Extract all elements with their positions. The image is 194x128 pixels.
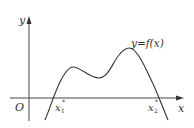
function-graph: y O x y=f(x) x 1 * x 2 * bbox=[0, 0, 194, 128]
origin-label: O bbox=[15, 101, 24, 114]
x-axis-arrow-icon bbox=[176, 96, 184, 101]
root-2-sup: * bbox=[155, 98, 158, 105]
y-axis-label: y bbox=[18, 14, 26, 27]
root-1-sub: 1 bbox=[61, 107, 65, 114]
y-axis-arrow-icon bbox=[27, 16, 32, 24]
curve-label: y=f(x) bbox=[130, 37, 164, 49]
root-2-label: x 2 * bbox=[148, 98, 158, 114]
root-2-sub: 2 bbox=[154, 107, 158, 114]
x-axis-label: x bbox=[178, 102, 185, 115]
root-1-sup: * bbox=[62, 98, 65, 105]
root-1-label: x 1 * bbox=[55, 98, 65, 114]
